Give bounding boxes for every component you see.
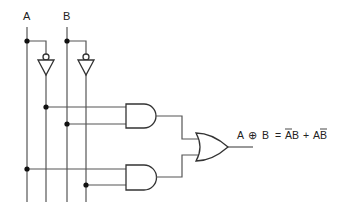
formula-term1-a: A <box>285 129 292 141</box>
formula-equals: = <box>275 129 281 141</box>
formula-lhs-a: A <box>237 129 244 141</box>
input-bus-lines <box>27 27 86 202</box>
and1-output-wire <box>156 116 199 139</box>
formula-term1-b: B <box>292 129 299 141</box>
junction-dot <box>43 104 48 109</box>
junction-dot <box>24 38 29 43</box>
junction-dot <box>64 121 69 126</box>
formula-lhs-b: B <box>262 129 269 141</box>
and-gate-1 <box>126 104 156 128</box>
not-gate-a <box>24 38 54 75</box>
junction-dot <box>64 38 69 43</box>
junction-dot <box>24 166 29 171</box>
formula-term2-a: A <box>313 129 320 141</box>
xor-logic-diagram: A B A ⊕ B = A <box>0 0 340 214</box>
not-gate-b <box>64 38 94 75</box>
input-label-a: A <box>23 10 31 22</box>
formula-xor-symbol: ⊕ <box>248 129 257 141</box>
input-label-b: B <box>63 10 70 22</box>
or-gate <box>196 133 228 161</box>
output-formula: A ⊕ B = A B + A B <box>237 129 327 141</box>
formula-plus: + <box>303 129 309 141</box>
and-gate-2 <box>126 165 157 190</box>
junction-dot <box>83 182 88 187</box>
and2-output-wire <box>156 155 199 177</box>
formula-term2-b: B <box>320 129 327 141</box>
